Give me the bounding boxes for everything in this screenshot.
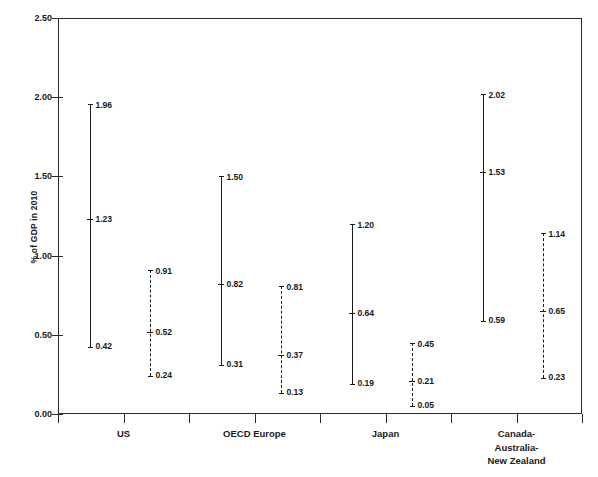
range-bar — [281, 286, 282, 394]
range-bar — [543, 233, 544, 377]
x-tick-mark — [517, 414, 518, 423]
range-bar — [352, 224, 353, 384]
range-mid-value-label: 0.21 — [418, 376, 434, 386]
range-top-cap — [219, 176, 224, 177]
range-low-value-label: 0.59 — [489, 315, 505, 325]
y-tick-label: 1.50 — [0, 171, 52, 181]
range-low-value-label: 0.23 — [549, 372, 565, 382]
range-low-value-label: 0.13 — [287, 387, 303, 397]
range-midpoint-marker — [147, 332, 153, 333]
x-axis-group-label-line: Canada- — [452, 427, 582, 441]
range-bar — [90, 104, 91, 348]
range-top-cap — [350, 224, 355, 225]
range-midpoint-marker — [349, 313, 355, 314]
x-axis-group-label-line: New Zealand — [452, 454, 582, 468]
y-tick-label: 1.00 — [0, 251, 52, 261]
range-high-value-label: 1.20 — [358, 220, 374, 230]
range-midpoint-marker — [218, 284, 224, 285]
range-top-cap — [541, 233, 546, 234]
x-tick-mark — [386, 414, 387, 423]
y-tick-mark — [52, 335, 63, 336]
x-axis-group-label-line: US — [59, 427, 189, 441]
range-midpoint-marker — [409, 381, 415, 382]
range-bottom-cap — [410, 406, 415, 407]
x-axis-group-label: Canada-Australia-New Zealand — [452, 427, 582, 468]
x-tick-mark — [124, 414, 125, 423]
x-axis-group-label-line: Australia- — [452, 441, 582, 455]
y-tick-label: 0.50 — [0, 330, 52, 340]
range-high-value-label: 0.45 — [418, 339, 434, 349]
range-low-value-label: 0.24 — [156, 370, 172, 380]
range-top-cap — [279, 286, 284, 287]
range-bar — [221, 176, 222, 364]
x-tick-mark — [58, 414, 59, 423]
range-bottom-cap — [148, 376, 153, 377]
chart-container: % of GDP in 2010 0.000.501.001.502.002.5… — [0, 0, 598, 477]
range-bottom-cap — [279, 393, 284, 394]
x-tick-mark — [320, 414, 321, 423]
range-mid-value-label: 0.64 — [358, 308, 374, 318]
y-tick-mark — [52, 97, 63, 98]
range-midpoint-marker — [480, 172, 486, 173]
x-tick-mark — [255, 414, 256, 423]
range-mid-value-label: 1.53 — [489, 167, 505, 177]
range-bottom-cap — [219, 365, 224, 366]
y-tick-label: 2.00 — [0, 92, 52, 102]
range-bottom-cap — [481, 321, 486, 322]
range-top-cap — [88, 104, 93, 105]
range-bar — [150, 270, 151, 376]
y-tick-label: 0.00 — [0, 409, 52, 419]
range-high-value-label: 0.81 — [287, 282, 303, 292]
range-high-value-label: 1.50 — [227, 172, 243, 182]
range-low-value-label: 0.19 — [358, 378, 374, 388]
x-axis-group-label-line: OECD Europe — [190, 427, 320, 441]
x-axis-group-label: US — [59, 427, 189, 441]
range-low-value-label: 0.05 — [418, 400, 434, 410]
range-midpoint-marker — [278, 355, 284, 356]
range-bar — [412, 343, 413, 406]
x-axis-group-label-line: Japan — [321, 427, 451, 441]
range-mid-value-label: 0.37 — [287, 350, 303, 360]
range-mid-value-label: 0.65 — [549, 306, 565, 316]
y-tick-mark — [52, 18, 63, 19]
y-tick-mark — [52, 176, 63, 177]
range-top-cap — [148, 270, 153, 271]
range-high-value-label: 2.02 — [489, 90, 505, 100]
range-mid-value-label: 1.23 — [96, 214, 112, 224]
range-top-cap — [481, 94, 486, 95]
range-high-value-label: 0.91 — [156, 266, 172, 276]
x-axis-group-label: OECD Europe — [190, 427, 320, 441]
range-mid-value-label: 0.52 — [156, 327, 172, 337]
range-bar — [483, 94, 484, 321]
range-bottom-cap — [541, 378, 546, 379]
plot-area — [58, 18, 582, 414]
range-midpoint-marker — [540, 311, 546, 312]
range-low-value-label: 0.42 — [96, 341, 112, 351]
range-mid-value-label: 0.82 — [227, 279, 243, 289]
x-tick-mark — [189, 414, 190, 423]
range-high-value-label: 1.14 — [549, 229, 565, 239]
range-high-value-label: 1.96 — [96, 100, 112, 110]
x-axis-group-label: Japan — [321, 427, 451, 441]
x-tick-mark — [582, 414, 583, 423]
range-bottom-cap — [88, 347, 93, 348]
range-low-value-label: 0.31 — [227, 359, 243, 369]
range-bottom-cap — [350, 384, 355, 385]
x-tick-mark — [451, 414, 452, 423]
y-tick-label: 2.50 — [0, 13, 52, 23]
y-tick-mark — [52, 256, 63, 257]
range-midpoint-marker — [87, 219, 93, 220]
range-top-cap — [410, 343, 415, 344]
